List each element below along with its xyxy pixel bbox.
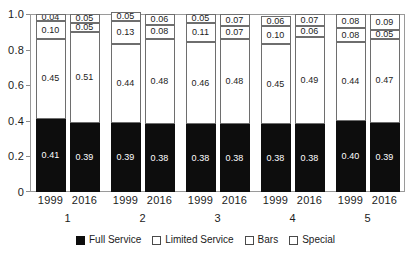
y-axis-tick-label: 1.0 — [8, 9, 24, 20]
bar-segment-full-service[interactable]: 0.38 — [295, 124, 325, 192]
x-axis-group-label: 2 — [103, 212, 183, 224]
bar-segment-full-service[interactable]: 0.39 — [370, 123, 400, 192]
bar-segment-value: 0.38 — [267, 154, 285, 163]
bar-segment-bars[interactable]: 0.11 — [186, 23, 216, 43]
bar-segment-full-service[interactable]: 0.38 — [220, 124, 250, 192]
bar-segment-value: 0.07 — [226, 16, 244, 25]
x-axis: 1999201611999201621999201631999201641999… — [30, 194, 405, 230]
bar-segment-value: 0.39 — [376, 153, 394, 162]
bar-segment-special[interactable]: 0.04 — [36, 14, 66, 21]
bar-segment-value: 0.41 — [42, 151, 60, 160]
bar-segment-value: 0.40 — [342, 152, 360, 161]
bar-segment-full-service[interactable]: 0.38 — [145, 124, 175, 192]
y-axis-tick-label: 0.4 — [8, 115, 24, 126]
bar-segment-value: 0.06 — [301, 27, 319, 36]
bar-segment-value: 0.05 — [76, 23, 94, 32]
bar-segment-value: 0.38 — [151, 154, 169, 163]
bar-segment-value: 0.44 — [117, 79, 135, 88]
legend-swatch-icon — [245, 236, 254, 245]
bar-segment-special[interactable]: 0.06 — [261, 16, 291, 27]
stacked-bar[interactable]: 0.410.450.100.04 — [36, 14, 66, 192]
bar-group: 0.390.440.130.050.380.480.080.06 — [105, 14, 180, 192]
y-axis-tick-label: 0 — [18, 187, 24, 198]
bar-segment-value: 0.07 — [301, 16, 319, 25]
bar-segment-special[interactable]: 0.07 — [220, 14, 250, 26]
stacked-bar[interactable]: 0.390.470.050.09 — [370, 14, 400, 192]
legend-item[interactable]: Limited Service — [152, 235, 233, 245]
bar-segment-value: 0.05 — [117, 12, 135, 21]
x-axis-group-label: 1 — [28, 212, 108, 224]
bar-segment-limited-service[interactable]: 0.44 — [111, 44, 141, 122]
bar-segment-bars[interactable]: 0.07 — [220, 26, 250, 38]
stacked-bar-chart: 00.20.40.60.81.0 0.410.450.100.040.390.5… — [0, 0, 411, 254]
y-axis-tick-label: 0.2 — [8, 151, 24, 162]
bar-segment-special[interactable]: 0.05 — [186, 14, 216, 23]
bar-segment-limited-service[interactable]: 0.49 — [295, 37, 325, 124]
bar-segment-bars[interactable]: 0.05 — [70, 23, 100, 32]
bar-segment-value: 0.45 — [267, 80, 285, 89]
bar-segment-limited-service[interactable]: 0.45 — [36, 39, 66, 119]
x-axis-group-label: 5 — [328, 212, 408, 224]
bar-group: 0.380.460.110.050.380.480.070.07 — [180, 14, 255, 192]
bar-segment-special[interactable]: 0.09 — [370, 14, 400, 30]
bar-segment-limited-service[interactable]: 0.48 — [220, 39, 250, 124]
bar-segment-special[interactable]: 0.07 — [295, 14, 325, 26]
bar-segment-full-service[interactable]: 0.39 — [111, 123, 141, 192]
bar-segment-bars[interactable]: 0.08 — [336, 28, 366, 42]
bar-segment-value: 0.39 — [117, 153, 135, 162]
stacked-bar[interactable]: 0.380.460.110.05 — [186, 14, 216, 192]
bar-segment-bars[interactable]: 0.10 — [261, 26, 291, 44]
bar-segment-value: 0.05 — [76, 14, 94, 23]
stacked-bar[interactable]: 0.380.480.070.07 — [220, 14, 250, 192]
bar-segment-bars[interactable]: 0.05 — [370, 30, 400, 39]
bar-segment-value: 0.38 — [301, 154, 319, 163]
bar-segment-full-service[interactable]: 0.38 — [186, 124, 216, 192]
bar-segment-value: 0.05 — [192, 14, 210, 23]
legend-item[interactable]: Bars — [245, 235, 279, 245]
bar-segment-full-service[interactable]: 0.41 — [36, 119, 66, 192]
stacked-bar[interactable]: 0.390.510.050.05 — [70, 14, 100, 192]
bar-segment-limited-service[interactable]: 0.47 — [370, 39, 400, 123]
bar-segment-full-service[interactable]: 0.40 — [336, 121, 366, 192]
bar-segment-limited-service[interactable]: 0.46 — [186, 42, 216, 124]
stacked-bar[interactable]: 0.380.490.060.07 — [295, 14, 325, 192]
bar-segment-limited-service[interactable]: 0.48 — [145, 39, 175, 124]
stacked-bar[interactable]: 0.380.450.100.06 — [261, 14, 291, 192]
x-axis-year-label: 2016 — [215, 194, 255, 206]
bar-group: 0.380.450.100.060.380.490.060.07 — [255, 14, 330, 192]
bar-segment-value: 0.04 — [42, 14, 60, 21]
bar-segment-value: 0.11 — [192, 28, 209, 37]
bar-segment-special[interactable]: 0.05 — [111, 12, 141, 21]
legend-swatch-icon — [76, 236, 85, 245]
y-axis-tick-label: 0.6 — [8, 80, 24, 91]
legend-label: Bars — [258, 235, 279, 245]
x-axis-year-label: 2016 — [290, 194, 330, 206]
bar-segment-bars[interactable]: 0.08 — [145, 25, 175, 39]
bar-segment-value: 0.08 — [342, 17, 360, 26]
bar-segment-value: 0.48 — [226, 77, 244, 86]
bar-segment-limited-service[interactable]: 0.45 — [261, 44, 291, 124]
bar-group: 0.410.450.100.040.390.510.050.05 — [30, 14, 105, 192]
bar-segment-special[interactable]: 0.08 — [336, 14, 366, 28]
bar-segment-limited-service[interactable]: 0.44 — [336, 42, 366, 120]
bar-segment-bars[interactable]: 0.10 — [36, 21, 66, 39]
bar-segment-value: 0.05 — [376, 30, 394, 39]
legend-item[interactable]: Special — [289, 235, 335, 245]
legend-item[interactable]: Full Service — [76, 235, 141, 245]
bar-segment-value: 0.10 — [42, 26, 60, 35]
bar-segment-value: 0.08 — [342, 31, 360, 40]
chart-legend: Full ServiceLimited ServiceBarsSpecial — [0, 230, 411, 250]
bar-segment-special[interactable]: 0.05 — [70, 14, 100, 23]
bar-segment-value: 0.45 — [42, 74, 60, 83]
bar-segment-bars[interactable]: 0.06 — [295, 26, 325, 37]
bar-segment-special[interactable]: 0.06 — [145, 14, 175, 25]
stacked-bar[interactable]: 0.400.440.080.08 — [336, 14, 366, 192]
stacked-bar[interactable]: 0.390.440.130.05 — [111, 14, 141, 192]
bar-segment-full-service[interactable]: 0.39 — [70, 123, 100, 192]
legend-label: Full Service — [89, 235, 141, 245]
bar-segment-value: 0.10 — [267, 31, 285, 40]
bar-segment-bars[interactable]: 0.13 — [111, 21, 141, 44]
bar-segment-limited-service[interactable]: 0.51 — [70, 32, 100, 123]
stacked-bar[interactable]: 0.380.480.080.06 — [145, 14, 175, 192]
bar-segment-full-service[interactable]: 0.38 — [261, 124, 291, 192]
